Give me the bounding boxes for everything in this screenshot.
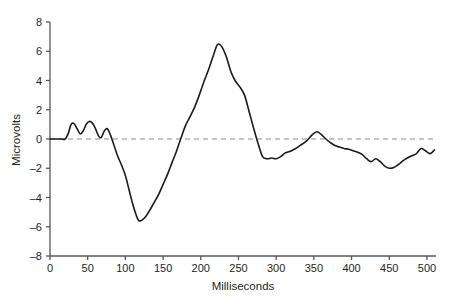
y-axis-title: Microvolts: [10, 114, 22, 166]
chart-canvas: –8–6–4–202468 05010015020025030035040045…: [0, 0, 451, 305]
x-tick-label: 300: [267, 262, 285, 274]
y-tick-label: –2: [30, 162, 42, 174]
y-tick-label: 6: [36, 45, 42, 57]
x-tick-label: 350: [305, 262, 323, 274]
y-tick-label: 4: [36, 75, 42, 87]
x-tick-label: 150: [154, 262, 172, 274]
erp-waveform-figure: –8–6–4–202468 05010015020025030035040045…: [0, 0, 451, 305]
x-tick-label: 0: [47, 262, 53, 274]
y-tick-label: 8: [36, 16, 42, 28]
y-tick-label: 2: [36, 104, 42, 116]
x-tick-label: 100: [116, 262, 134, 274]
y-tick-label: –4: [30, 192, 42, 204]
x-tick-label: 400: [342, 262, 360, 274]
y-tick-label: 0: [36, 133, 42, 145]
x-tick-label: 250: [229, 262, 247, 274]
x-tick-label: 50: [82, 262, 94, 274]
x-tick-label: 500: [418, 262, 436, 274]
y-tick-label: –6: [30, 221, 42, 233]
x-tick-label: 200: [192, 262, 210, 274]
x-tick-label: 450: [380, 262, 398, 274]
figure-background: [0, 0, 451, 305]
y-tick-label: –8: [30, 250, 42, 262]
x-axis-title: Milliseconds: [212, 280, 275, 292]
